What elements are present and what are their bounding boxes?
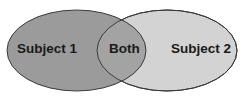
venn-diagram: Subject 1 Both Subject 2	[0, 0, 243, 96]
subject-2-label: Subject 2	[171, 41, 231, 56]
subject-1-label: Subject 1	[17, 41, 78, 56]
intersection-label: Both	[109, 41, 140, 56]
